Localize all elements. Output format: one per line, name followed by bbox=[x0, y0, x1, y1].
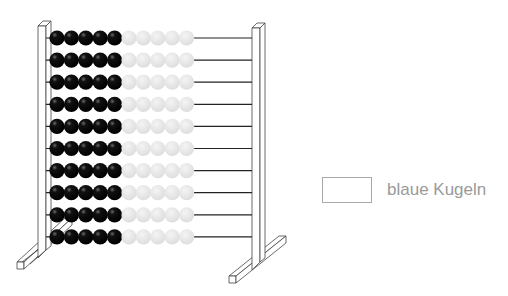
dark-bead bbox=[49, 119, 64, 134]
bead-row bbox=[46, 119, 252, 134]
dark-bead bbox=[93, 207, 108, 222]
light-bead bbox=[179, 119, 194, 134]
dark-bead bbox=[78, 30, 93, 45]
dark-bead bbox=[64, 229, 79, 244]
light-bead bbox=[150, 185, 165, 200]
light-bead bbox=[121, 30, 136, 45]
bead-row bbox=[46, 207, 252, 222]
light-bead bbox=[136, 207, 151, 222]
light-bead bbox=[121, 207, 136, 222]
light-bead bbox=[165, 185, 180, 200]
dark-bead bbox=[49, 75, 64, 90]
answer-label: blaue Kugeln bbox=[387, 180, 486, 200]
light-bead bbox=[136, 30, 151, 45]
bead-row bbox=[46, 53, 252, 68]
dark-bead bbox=[49, 97, 64, 112]
light-bead bbox=[150, 163, 165, 178]
dark-bead bbox=[93, 30, 108, 45]
dark-bead bbox=[64, 30, 79, 45]
left-post bbox=[22, 21, 51, 264]
light-bead bbox=[121, 119, 136, 134]
dark-bead bbox=[107, 53, 122, 68]
light-bead bbox=[136, 75, 151, 90]
dark-bead bbox=[49, 163, 64, 178]
dark-bead bbox=[49, 185, 64, 200]
light-bead bbox=[165, 141, 180, 156]
light-bead bbox=[179, 30, 194, 45]
light-bead bbox=[150, 207, 165, 222]
dark-bead bbox=[78, 97, 93, 112]
dark-bead bbox=[107, 185, 122, 200]
light-bead bbox=[179, 229, 194, 244]
light-bead bbox=[179, 75, 194, 90]
dark-bead bbox=[78, 229, 93, 244]
light-bead bbox=[136, 97, 151, 112]
dark-bead bbox=[93, 53, 108, 68]
light-bead bbox=[179, 207, 194, 222]
light-bead bbox=[150, 119, 165, 134]
dark-bead bbox=[78, 207, 93, 222]
dark-bead bbox=[78, 185, 93, 200]
light-bead bbox=[165, 30, 180, 45]
light-bead bbox=[121, 97, 136, 112]
dark-bead bbox=[64, 75, 79, 90]
dark-bead bbox=[93, 163, 108, 178]
dark-bead bbox=[49, 53, 64, 68]
bead-row bbox=[46, 141, 252, 156]
dark-bead bbox=[93, 185, 108, 200]
light-bead bbox=[179, 53, 194, 68]
dark-bead bbox=[49, 141, 64, 156]
dark-bead bbox=[93, 141, 108, 156]
dark-bead bbox=[107, 229, 122, 244]
dark-bead bbox=[49, 30, 64, 45]
light-bead bbox=[165, 163, 180, 178]
light-bead bbox=[165, 229, 180, 244]
light-bead bbox=[121, 53, 136, 68]
answer-input-box[interactable] bbox=[322, 177, 372, 203]
dark-bead bbox=[64, 141, 79, 156]
dark-bead bbox=[107, 30, 122, 45]
dark-bead bbox=[107, 141, 122, 156]
light-bead bbox=[136, 141, 151, 156]
bead-rows bbox=[46, 30, 252, 244]
dark-bead bbox=[93, 97, 108, 112]
light-bead bbox=[136, 185, 151, 200]
bead-row bbox=[46, 97, 252, 112]
dark-bead bbox=[93, 229, 108, 244]
light-bead bbox=[150, 97, 165, 112]
light-bead bbox=[121, 229, 136, 244]
dark-bead bbox=[49, 229, 64, 244]
dark-bead bbox=[78, 119, 93, 134]
light-bead bbox=[121, 75, 136, 90]
light-bead bbox=[165, 97, 180, 112]
light-bead bbox=[121, 185, 136, 200]
dark-bead bbox=[107, 75, 122, 90]
bead-row bbox=[46, 75, 252, 90]
dark-bead bbox=[93, 75, 108, 90]
light-bead bbox=[136, 163, 151, 178]
light-bead bbox=[165, 53, 180, 68]
bead-row bbox=[46, 163, 252, 178]
dark-bead bbox=[107, 119, 122, 134]
dark-bead bbox=[107, 163, 122, 178]
light-bead bbox=[165, 75, 180, 90]
dark-bead bbox=[64, 185, 79, 200]
dark-bead bbox=[78, 163, 93, 178]
light-bead bbox=[121, 141, 136, 156]
light-bead bbox=[136, 229, 151, 244]
abacus-illustration bbox=[0, 0, 300, 296]
light-bead bbox=[179, 97, 194, 112]
light-bead bbox=[136, 119, 151, 134]
light-bead bbox=[179, 185, 194, 200]
dark-bead bbox=[64, 97, 79, 112]
dark-bead bbox=[78, 53, 93, 68]
bead-row bbox=[46, 185, 252, 200]
dark-bead bbox=[107, 97, 122, 112]
light-bead bbox=[150, 75, 165, 90]
dark-bead bbox=[64, 119, 79, 134]
light-bead bbox=[121, 163, 136, 178]
light-bead bbox=[136, 53, 151, 68]
dark-bead bbox=[64, 207, 79, 222]
dark-bead bbox=[93, 119, 108, 134]
light-bead bbox=[150, 229, 165, 244]
